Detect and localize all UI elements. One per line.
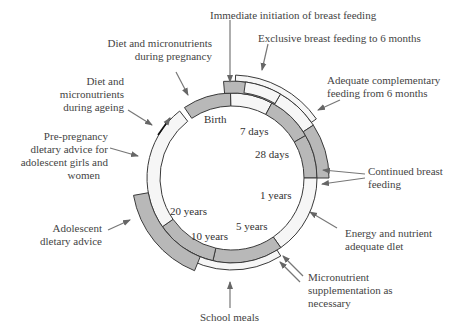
text-line: necessary xyxy=(308,297,393,310)
text-line: supplementation as xyxy=(308,284,393,297)
arrow-ageing xyxy=(128,110,152,125)
label-birth: Birth xyxy=(204,113,227,125)
arrow-pregnancy xyxy=(176,72,188,95)
label-5-years: 5 years xyxy=(236,220,267,232)
label-7-days: 7 days xyxy=(240,125,268,137)
text-line: feeding xyxy=(368,178,443,191)
label-complementary-feeding: Adequate complementary feeding from 6 mo… xyxy=(327,74,440,100)
label-continued-breast-feeding: Continued breast feeding xyxy=(368,165,443,191)
label-pre-pregnancy-advice: Pre-pregnancy dletary advice for adolesc… xyxy=(5,130,108,182)
text-line: Diet and xyxy=(30,75,124,88)
arrow-continued-bf-2 xyxy=(322,178,365,184)
text-line: Energy and nutrient xyxy=(345,227,432,240)
text-line: Pre-pregnancy xyxy=(5,130,108,143)
label-adolescent-dietary-advice: Adolescent dletary advice xyxy=(34,222,102,248)
label-diet-during-pregnancy: Diet and micronutrients during pregnancy xyxy=(60,37,212,63)
text-line: Diet and micronutrients xyxy=(60,37,212,50)
text-line: feeding from 6 months xyxy=(327,87,440,100)
label-energy-nutrient-diet: Energy and nutrient adequate dlet xyxy=(345,227,432,253)
text-line: women xyxy=(5,169,108,182)
arrow-exclusive-bf xyxy=(262,44,268,70)
label-school-meals: School meals xyxy=(200,311,259,324)
text-line: during ageing xyxy=(30,101,124,114)
label-micronutrient-supplementation: Micronutrient supplementation as necessa… xyxy=(308,271,393,310)
label-1-years: 1 years xyxy=(260,189,291,201)
text-line: Adolescent xyxy=(34,222,102,235)
label-diet-during-ageing: Diet and micronutrients during ageing xyxy=(30,75,124,114)
text-line: dletary advice for xyxy=(5,143,108,156)
label-10-years: 10 years xyxy=(191,230,228,242)
arrow-complementary xyxy=(318,100,340,110)
label-exclusive-breast-feeding: Exclusive breast feeding to 6 months xyxy=(258,32,421,45)
label-28-days: 28 days xyxy=(255,148,289,160)
text-line: adolescent girls and xyxy=(5,156,108,169)
label-20-years: 20 years xyxy=(170,205,207,217)
arrow-prepregnancy xyxy=(110,148,138,156)
arrow-micronutrient-1 xyxy=(283,256,303,276)
label-immediate-breast-feeding: Immediate initiation of breast feeding xyxy=(210,9,376,22)
text-line: dletary advice xyxy=(34,235,102,248)
text-line: during pregnancy xyxy=(60,50,212,63)
arrow-adolescent xyxy=(108,220,130,230)
text-line: Adequate complementary xyxy=(327,74,440,87)
text-line: micronutrients xyxy=(30,88,124,101)
text-line: adequate dlet xyxy=(345,240,432,253)
arrow-energy-diet xyxy=(310,212,337,228)
text-line: Micronutrient xyxy=(308,271,393,284)
text-line: Continued breast xyxy=(368,165,443,178)
arrow-micronutrient-2 xyxy=(280,262,300,282)
